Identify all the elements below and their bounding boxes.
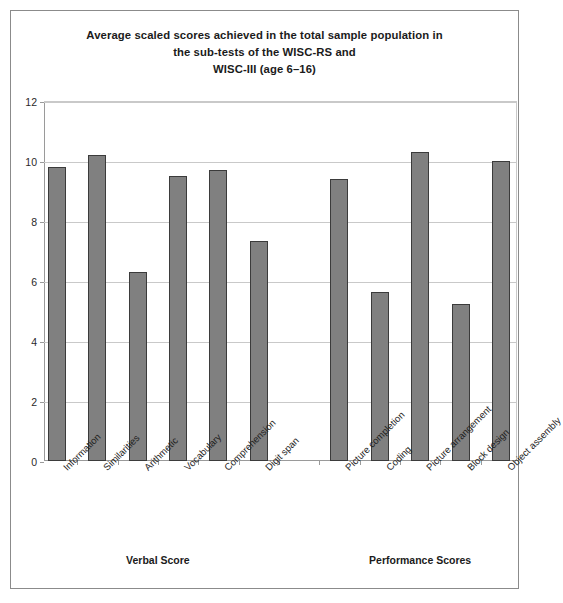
gridline xyxy=(44,162,516,163)
group-label: Performance Scores xyxy=(369,554,471,566)
gridline xyxy=(44,102,516,103)
y-tick-label: 10 xyxy=(25,156,37,168)
chart-figure: Average scaled scores achieved in the to… xyxy=(10,10,519,589)
bar xyxy=(88,155,106,461)
y-tick-mark xyxy=(40,342,44,343)
y-tick-mark xyxy=(40,222,44,223)
chart-title-line-3: WISC-III (age 6–16) xyxy=(11,61,518,78)
y-tick-mark xyxy=(40,102,44,103)
y-tick-label: 2 xyxy=(31,396,37,408)
chart-title: Average scaled scores achieved in the to… xyxy=(11,27,518,78)
plot-area: 024681012 xyxy=(44,101,517,461)
bar xyxy=(169,176,187,461)
bar xyxy=(209,170,227,461)
x-tick-mark xyxy=(319,461,320,465)
gridline xyxy=(44,402,516,403)
bar xyxy=(492,161,510,461)
y-tick-mark xyxy=(40,282,44,283)
bar xyxy=(330,179,348,461)
y-tick-mark xyxy=(40,462,44,463)
y-tick-mark xyxy=(40,162,44,163)
y-tick-label: 6 xyxy=(31,276,37,288)
bar xyxy=(48,167,66,461)
y-tick-label: 4 xyxy=(31,336,37,348)
y-tick-mark xyxy=(40,402,44,403)
group-label: Verbal Score xyxy=(126,554,190,566)
chart-title-line-1: Average scaled scores achieved in the to… xyxy=(11,27,518,44)
y-tick-label: 8 xyxy=(31,216,37,228)
bar xyxy=(411,152,429,461)
gridline xyxy=(44,222,516,223)
gridline xyxy=(44,342,516,343)
y-tick-label: 12 xyxy=(25,96,37,108)
chart-title-line-2: the sub-tests of the WISC-RS and xyxy=(11,44,518,61)
y-tick-label: 0 xyxy=(31,456,37,468)
gridline xyxy=(44,282,516,283)
